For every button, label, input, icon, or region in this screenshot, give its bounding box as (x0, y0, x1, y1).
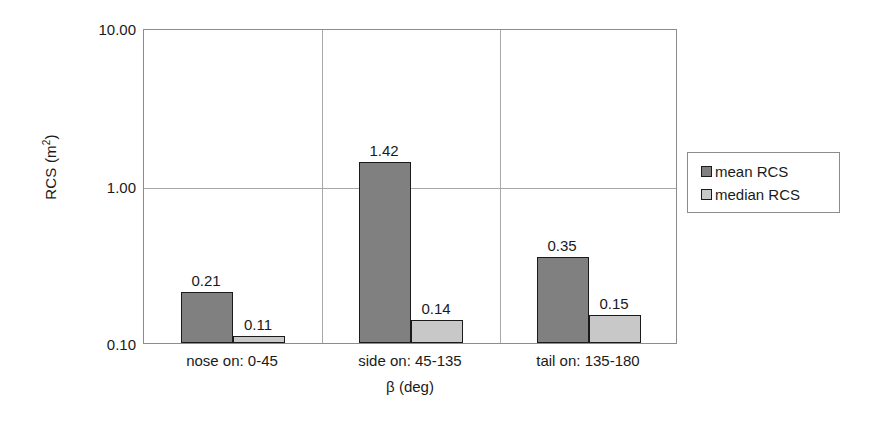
legend-item-label: mean RCS (715, 163, 788, 180)
y-axis-tick-label: 0.10 (80, 337, 136, 352)
rcs-bar-chart-figure: RCS (m2) 10.001.000.10 nose on: 0-45side… (0, 0, 870, 428)
bar-median (589, 315, 641, 343)
bar-value-label: 0.21 (174, 273, 238, 288)
x-axis-tick-label: side on: 45-135 (321, 352, 499, 369)
y-axis-tick-labels: 10.001.000.10 (80, 0, 136, 428)
bar-value-label: 1.42 (352, 143, 416, 158)
y-axis-title-close: ) (42, 134, 59, 139)
category-separator-line (500, 30, 501, 343)
chart-legend: mean RCSmedian RCS (687, 152, 840, 213)
x-axis-tick-label: nose on: 0-45 (143, 352, 321, 369)
x-axis-title: β (deg) (143, 378, 677, 395)
y-axis-title: RCS (m2) (41, 97, 59, 237)
y-axis-tick-label: 10.00 (80, 22, 136, 37)
bar-value-label: 0.35 (530, 238, 594, 253)
bar-value-label: 0.11 (226, 317, 290, 332)
bar-median (411, 320, 463, 343)
bar-value-label: 0.15 (582, 296, 646, 311)
legend-item[interactable]: mean RCS (701, 160, 839, 183)
legend-item-label: median RCS (715, 186, 800, 203)
bar-median (233, 336, 285, 343)
y-axis-title-text: RCS (m (42, 145, 59, 200)
legend-swatch-icon (701, 166, 712, 177)
bar-value-label: 0.14 (404, 301, 468, 316)
y-axis-tick-label: 1.00 (80, 180, 136, 195)
category-separator-line (322, 30, 323, 343)
legend-item[interactable]: median RCS (701, 183, 839, 206)
legend-swatch-icon (701, 189, 712, 200)
x-axis-tick-label: tail on: 135-180 (499, 352, 677, 369)
y-axis-title-superscript: 2 (41, 139, 52, 145)
